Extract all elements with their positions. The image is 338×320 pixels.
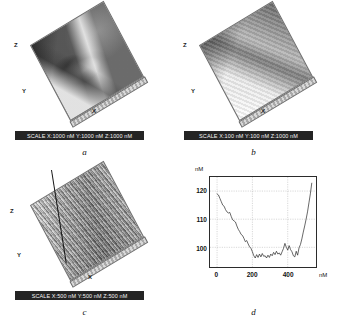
afm-image-c: Z Y X [0, 160, 169, 294]
afm-surface-a [30, 1, 144, 121]
x-axis-ticks: 0200400 [209, 271, 317, 281]
figure-panel-d: nM 100110120 0200400 nM d [169, 160, 338, 320]
axis-label-z-c: Z [10, 208, 14, 214]
afm-surface-c [30, 161, 144, 281]
axis-label-x-a: X [92, 108, 96, 114]
figure-panel-c: Z Y X SCALE X:500 nM Y:500 nM Z:500 nM c [0, 160, 169, 320]
y-tick-label: 120 [171, 187, 207, 194]
afm-block-a [30, 1, 144, 121]
figure-panel-grid: Z Y X SCALE X:1000 nM Y:1000 nM Z:1000 n… [0, 0, 338, 320]
plot-area [209, 176, 317, 268]
panel-caption-b: b [169, 147, 338, 157]
afm-surface-b [199, 1, 313, 121]
axis-label-x-b: X [261, 108, 265, 114]
afm-image-b: Z Y X [169, 0, 338, 134]
axis-label-y-a: Y [22, 88, 26, 94]
axis-label-x-c: X [88, 274, 92, 280]
y-tick-label: 100 [171, 244, 207, 251]
x-tick-label: 200 [247, 271, 258, 278]
axis-label-y-c: Y [17, 252, 21, 258]
axis-label-z-b: Z [183, 42, 187, 48]
panel-caption-c: c [0, 307, 169, 317]
scale-bar-b: SCALE X:100 nM Y:100 nM Z:1000 nM [184, 131, 313, 140]
panel-caption-d: d [169, 307, 338, 317]
x-axis-unit-label: nM [319, 272, 327, 278]
y-axis-unit-label: nM [195, 166, 203, 172]
axis-label-y-b: Y [191, 88, 195, 94]
x-tick-label: 0 [214, 271, 218, 278]
figure-panel-a: Z Y X SCALE X:1000 nM Y:1000 nM Z:1000 n… [0, 0, 169, 160]
afm-block-c [30, 161, 144, 281]
x-tick-label: 400 [283, 271, 294, 278]
y-tick-label: 110 [171, 216, 207, 223]
afm-image-a: Z Y X [0, 0, 169, 134]
panel-caption-a: a [0, 147, 169, 157]
scale-bar-a: SCALE X:1000 nM Y:1000 nM Z:1000 nM [15, 131, 144, 140]
afm-block-b [199, 1, 313, 121]
grid-lines [210, 177, 316, 267]
figure-panel-b: Z Y X SCALE X:100 nM Y:100 nM Z:1000 nM … [169, 0, 338, 160]
axis-label-z-a: Z [14, 42, 18, 48]
profile-plot-svg [210, 177, 316, 267]
scale-bar-c: SCALE X:500 nM Y:500 nM Z:500 nM [15, 291, 144, 300]
y-axis-ticks: 100110120 [169, 176, 207, 268]
height-profile-chart: nM 100110120 0200400 nM [169, 160, 338, 294]
profile-line-series [217, 183, 312, 258]
